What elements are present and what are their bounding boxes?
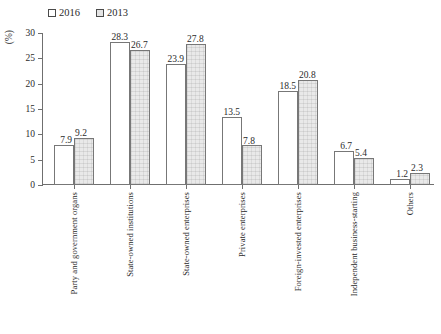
category-label: Private enterprises: [238, 192, 247, 257]
bar-2013: 20.8: [298, 80, 318, 185]
y-tick-label: 30: [26, 28, 36, 38]
bar-2013: 27.8: [186, 44, 206, 185]
x-tick-mark: [186, 185, 187, 189]
bar-group: 23.927.8: [166, 33, 206, 185]
x-tick-mark: [354, 185, 355, 189]
bar-value-label: 6.7: [340, 142, 352, 152]
bar-chart: 2016 2013 (%) 510152025300 7.99.228.326.…: [0, 0, 441, 334]
y-tick-label: 5: [30, 155, 35, 165]
bar-2016: 13.5: [222, 117, 242, 185]
bar-2016: 1.2: [390, 179, 410, 185]
bar-2013: 9.2: [74, 138, 94, 185]
bar-value-label: 28.3: [111, 33, 128, 43]
y-tick-mark: [38, 134, 43, 135]
legend-label-2016: 2016: [59, 8, 80, 19]
x-tick-mark: [130, 185, 131, 189]
bar-value-label: 18.5: [279, 82, 296, 92]
bar-2016: 28.3: [110, 42, 130, 185]
bar-value-label: 27.8: [187, 35, 204, 45]
bar-value-label: 9.2: [75, 129, 87, 139]
y-tick-mark: [38, 58, 43, 59]
x-tick-mark: [242, 185, 243, 189]
category-label: Others: [406, 192, 415, 215]
legend-item-2016: 2016: [48, 8, 80, 19]
y-tick-mark: [38, 33, 43, 34]
bar-2016: 23.9: [166, 64, 186, 185]
bar-2013: 26.7: [130, 50, 150, 185]
plot-area: 510152025300 7.99.228.326.723.927.813.57…: [42, 33, 434, 185]
bar-2016: 7.9: [54, 145, 74, 185]
legend-label-2013: 2013: [107, 8, 128, 19]
y-axis-title: (%): [4, 30, 14, 44]
y-tick-label: 25: [26, 53, 36, 63]
bar-value-label: 20.8: [299, 71, 316, 81]
y-tick-mark: [38, 185, 43, 186]
y-tick-label: 20: [26, 79, 36, 89]
y-tick-label: 10: [26, 129, 36, 139]
y-tick-label: 15: [26, 104, 36, 114]
category-label: Independent business-starting: [350, 192, 359, 296]
x-tick-mark: [298, 185, 299, 189]
category-label: State-owned enterprises: [182, 192, 191, 276]
category-label: State-owned institutions: [126, 192, 135, 277]
bar-2016: 6.7: [334, 151, 354, 185]
legend-item-2013: 2013: [96, 8, 128, 19]
legend-swatch-gray-square-icon: [96, 9, 104, 17]
bar-2013: 2.3: [410, 173, 430, 185]
bar-2013: 7.8: [242, 145, 262, 185]
x-tick-mark: [74, 185, 75, 189]
y-tick-label: 0: [30, 180, 35, 190]
bar-value-label: 2.3: [411, 164, 423, 174]
bar-2016: 18.5: [278, 91, 298, 185]
bar-group: 13.57.8: [222, 33, 262, 185]
bar-value-label: 7.8: [243, 137, 255, 147]
category-label: Party and government organs: [70, 192, 79, 294]
chart-legend: 2016 2013: [48, 8, 128, 19]
bar-value-label: 1.2: [396, 170, 408, 180]
x-tick-mark: [410, 185, 411, 189]
y-tick-mark: [38, 84, 43, 85]
bar-group: 6.75.4: [334, 33, 374, 185]
bar-value-label: 13.5: [223, 108, 240, 118]
bar-group: 28.326.7: [110, 33, 150, 185]
bar-2013: 5.4: [354, 158, 374, 185]
bar-value-label: 7.9: [60, 136, 72, 146]
y-tick-mark: [38, 109, 43, 110]
bar-group: 7.99.2: [54, 33, 94, 185]
legend-swatch-empty-square-icon: [48, 9, 56, 17]
category-label: Foreign-invested enterprises: [294, 192, 303, 291]
bar-group: 1.22.3: [390, 33, 430, 185]
y-tick-mark: [38, 160, 43, 161]
bar-value-label: 26.7: [131, 41, 148, 51]
bar-group: 18.520.8: [278, 33, 318, 185]
bar-value-label: 23.9: [167, 55, 184, 65]
bar-value-label: 5.4: [355, 149, 367, 159]
